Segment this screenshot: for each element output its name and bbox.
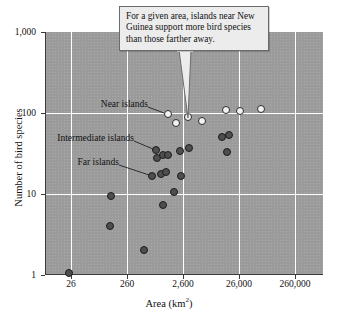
xtick-label-260000: 260,000 (280, 279, 311, 289)
data-point-far (140, 246, 148, 254)
data-point-intermediate (185, 144, 193, 152)
data-point-far (177, 172, 185, 180)
data-point-far (162, 168, 170, 176)
xtick-label-2600: 2,600 (172, 279, 193, 289)
ytick-label-10: 10 (27, 189, 37, 199)
tick-y-3 (41, 275, 45, 276)
ytick-label-100: 100 (22, 108, 36, 118)
xtick-label-26000: 26,000 (226, 279, 252, 289)
gridline-x-260000 (295, 32, 296, 275)
tick-y-0 (41, 32, 45, 33)
x-axis-title: Area (km2) (0, 296, 338, 309)
tick-y-1 (41, 113, 45, 114)
data-point-intermediate (223, 148, 231, 156)
scatter-plot-figure: 26 260 2,600 26,000 260,000 1,000 100 10… (0, 0, 338, 317)
x-axis-title-close: ) (189, 298, 193, 309)
callout-text: For a given area, islands near New Guine… (126, 11, 255, 44)
data-point-far (107, 192, 115, 200)
x-axis-title-text: Area (km (146, 298, 186, 309)
ytick-label-1000: 1,000 (15, 27, 36, 37)
ytick-label-1: 1 (31, 270, 36, 280)
tick-y-2 (41, 194, 45, 195)
annotation-far-islands: Far islands (78, 157, 119, 167)
callout-box: For a given area, islands near New Guine… (119, 6, 269, 51)
gridline-y-10 (45, 194, 323, 195)
data-point-far (65, 269, 73, 277)
xtick-label-26: 26 (66, 279, 76, 289)
data-point-far (170, 188, 178, 196)
data-point-far (159, 201, 167, 209)
data-point-far (148, 172, 156, 180)
data-point-intermediate (164, 151, 172, 159)
data-point-intermediate (176, 147, 184, 155)
y-axis-title: Number of bird species (13, 48, 24, 268)
data-point-far (106, 222, 114, 230)
xtick-label-260: 260 (120, 279, 134, 289)
gridline-x-26 (71, 32, 72, 275)
